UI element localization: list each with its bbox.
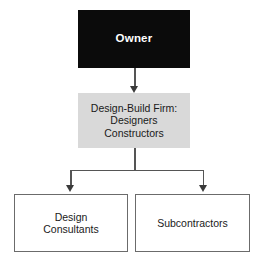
node-owner-label: Owner <box>116 32 153 46</box>
edge-firm-to-subcontractors <box>203 170 205 187</box>
node-design-build-firm[interactable]: Design-Build Firm: Designers Constructor… <box>78 93 190 148</box>
arrow-down-icon-firm-to-subcontractors <box>199 185 207 192</box>
edge-split-bus <box>70 170 204 172</box>
arrow-down-icon-owner-to-firm <box>130 86 138 93</box>
arrow-down-icon-firm-to-design-consultants <box>66 185 74 192</box>
edge-owner-to-firm <box>134 68 136 88</box>
node-owner[interactable]: Owner <box>78 10 190 68</box>
edge-firm-to-design-consultants <box>70 170 72 187</box>
node-design-build-firm-label: Design-Build Firm: Designers Constructor… <box>91 102 177 139</box>
edge-firm-stem <box>134 148 136 171</box>
node-subcontractors[interactable]: Subcontractors <box>135 194 250 252</box>
node-design-consultants[interactable]: Design Consultants <box>14 194 128 252</box>
diagram-canvas: Owner Design-Build Firm: Designers Const… <box>0 0 263 263</box>
node-design-consultants-label: Design Consultants <box>43 211 98 236</box>
node-subcontractors-label: Subcontractors <box>157 217 228 229</box>
